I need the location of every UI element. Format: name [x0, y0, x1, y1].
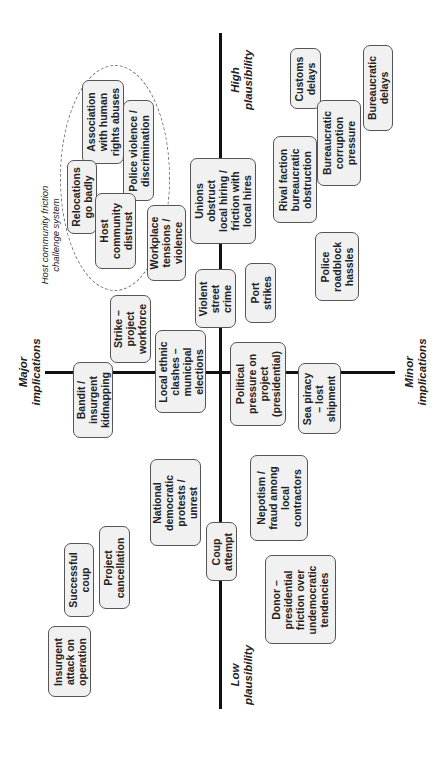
risk-political-pressure: Political pressure on project (president… — [230, 342, 286, 426]
risk-host-distrust: Host community distrust — [95, 193, 136, 269]
risk-successful-coup: Successful coup — [64, 543, 94, 617]
risk-customs: Customs delays — [290, 48, 321, 109]
risk-port-strikes: Port strikes — [245, 263, 276, 323]
risk-police-violence: Police violence / discrimination — [123, 100, 154, 201]
risk-donor: Donor – presidential friction over undem… — [265, 555, 336, 644]
risk-roadblock: Police roadblock hassles — [315, 232, 359, 301]
risk-sea-piracy: Sea piracy – lost shipment — [298, 363, 341, 434]
risk-ethnic-clashes: Local ethnic clashes – municipal electio… — [155, 330, 206, 413]
risk-cancellation: Project cancellation — [99, 526, 130, 609]
risk-insurgent-attack: Insurgent attack on operation — [48, 626, 91, 697]
risk-workplace: Workplace tensions / violence — [147, 205, 186, 281]
risk-kidnapping: Bandit / insurgent kidnapping — [73, 362, 113, 438]
host-community-cluster-label: Host community friction challenge system — [36, 175, 64, 295]
risk-strike-workforce: Strike – project workforce — [110, 295, 151, 363]
risk-nepotism: Nepotism / fraud among local contractors — [250, 455, 308, 541]
risk-human-rights: Association with human rights abuses — [82, 80, 124, 164]
risk-protests: National democratic protests / unrest — [150, 459, 201, 546]
risk-unions: Unions obstruct local hiring / friction … — [190, 158, 256, 244]
high-plausibility-label: High plausibility — [222, 40, 262, 120]
risk-coup-attempt: Coup attempt — [206, 522, 237, 581]
low-plausibility-label: Low plausibility — [222, 640, 262, 710]
risk-street-crime: Violent street crime — [195, 269, 236, 328]
minor-implications-label: Minor implications — [396, 330, 436, 414]
risk-relocations: Relocations go badly — [67, 160, 97, 234]
risk-bureaucratic-delays: Bureaucratic delays — [363, 45, 393, 131]
risk-corruption: Bureaucratic corruption pressure — [317, 100, 361, 186]
major-implications-label: Major implications — [10, 330, 50, 414]
risk-rival-faction: Rival faction bureaucratic obstruction — [273, 136, 317, 223]
